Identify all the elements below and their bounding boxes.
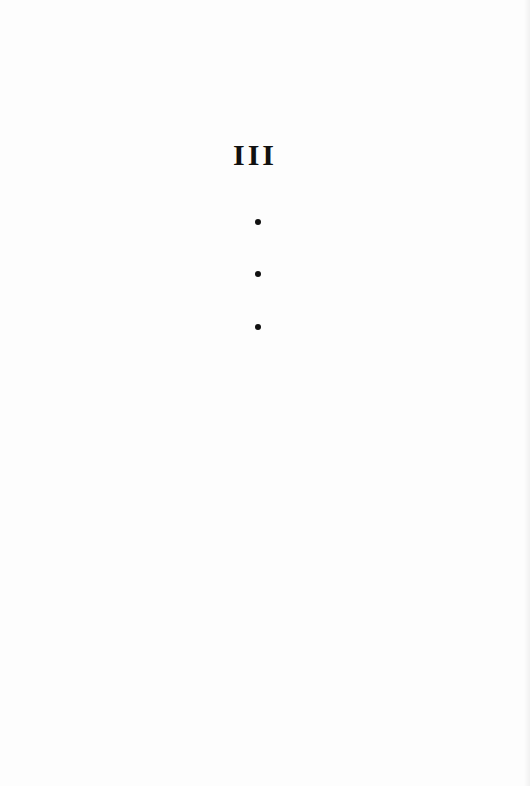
ornament-dot-2	[255, 271, 261, 277]
page-edge-shadow	[524, 0, 530, 786]
ornament-dot-1	[255, 219, 261, 225]
section-heading: III	[0, 138, 510, 172]
book-page: III	[0, 0, 530, 786]
ornament-dot-3	[255, 324, 261, 330]
